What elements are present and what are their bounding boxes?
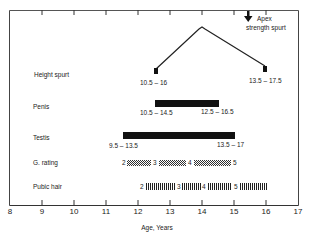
svg-text:3: 3 [153,159,157,166]
svg-text:2: 2 [140,183,144,190]
g-rating-stages: 2 3 4 5 [122,159,237,166]
svg-text:3: 3 [177,183,181,190]
down-arrow-icon [244,11,253,22]
svg-text:13: 13 [166,207,175,216]
svg-text:10.5 – 16: 10.5 – 16 [140,79,167,86]
svg-text:12.5 – 16.5: 12.5 – 16.5 [201,108,234,115]
svg-text:11: 11 [102,207,111,216]
svg-text:14: 14 [198,207,207,216]
height-spurt-peak: 10.5 – 16 13.5 – 17.5 [140,27,282,86]
bottom-ticks [42,200,266,205]
testis-bar: 9.5 – 13.5 13.5 – 17 [109,132,244,149]
svg-text:Apex: Apex [257,15,273,23]
svg-text:13.5 – 17: 13.5 – 17 [217,141,244,148]
row-label-g-rating: G. rating [33,159,58,167]
plot-frame [10,11,299,206]
row-label-pubic-hair: Pubic hair [33,183,63,190]
svg-text:2: 2 [122,159,126,166]
svg-text:5: 5 [234,183,238,190]
svg-text:13.5 – 17.5: 13.5 – 17.5 [249,77,282,84]
row-labels: Height spurt Penis Testis G. rating Pubi… [33,71,69,190]
svg-text:17: 17 [294,207,303,216]
penis-bar: 10.5 – 14.5 12.5 – 16.5 [140,100,234,116]
svg-text:9.5 – 13.5: 9.5 – 13.5 [109,142,138,149]
row-label-testis: Testis [33,134,50,141]
svg-text:15: 15 [230,207,239,216]
svg-text:10: 10 [70,207,79,216]
x-tick-labels: 8 9 10 11 12 13 14 15 16 17 [8,207,303,216]
pubic-hair-stages: 2 3 4 5 [140,183,267,190]
svg-text:8: 8 [8,207,13,216]
svg-text:5: 5 [233,159,237,166]
svg-text:4: 4 [188,159,192,166]
row-label-penis: Penis [33,103,50,110]
apex-annotation: Apex strength spurt [244,11,286,32]
svg-text:16: 16 [262,207,271,216]
svg-text:strength spurt: strength spurt [246,24,286,32]
svg-text:12: 12 [134,207,143,216]
svg-text:10.5 – 14.5: 10.5 – 14.5 [140,109,173,116]
x-axis-label: Age, Years [141,224,173,232]
chart: 8 9 10 11 12 13 14 15 16 17 Age, Years A… [0,0,309,239]
row-label-height-spurt: Height spurt [34,71,69,79]
svg-text:9: 9 [40,207,45,216]
svg-text:4: 4 [202,183,206,190]
